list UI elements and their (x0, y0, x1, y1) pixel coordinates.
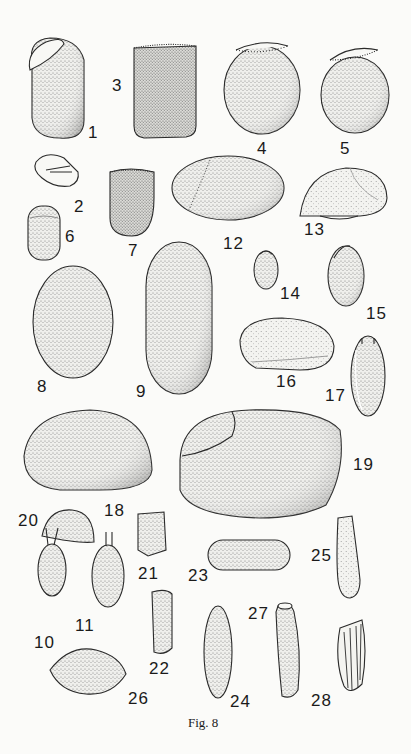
specimen-25 (337, 516, 360, 598)
label-18: 18 (104, 502, 125, 519)
specimen-7 (110, 169, 154, 236)
label-4: 4 (257, 140, 267, 157)
label-9: 9 (136, 383, 146, 400)
specimen-28 (338, 620, 365, 691)
label-27: 27 (248, 605, 269, 622)
label-3: 3 (112, 77, 122, 94)
specimen-12 (172, 156, 284, 220)
figure-caption: Fig. 8 (188, 716, 218, 729)
label-25: 25 (311, 547, 332, 564)
specimen-21 (138, 512, 166, 556)
specimen-1 (29, 38, 84, 138)
specimen-8 (33, 266, 113, 378)
specimen-27 (276, 603, 299, 697)
specimen-24 (204, 606, 232, 698)
label-12: 12 (223, 235, 244, 252)
specimen-17 (351, 336, 385, 416)
label-20: 20 (18, 512, 39, 529)
specimen-20 (42, 510, 94, 543)
specimen-18 (24, 410, 152, 490)
specimen-22 (152, 590, 172, 653)
figure-8: 1 3 4 5 2 7 6 12 13 14 15 8 9 16 17 19 1… (0, 0, 411, 754)
specimen-3 (134, 44, 196, 138)
label-19: 19 (353, 456, 374, 473)
specimen-19 (180, 410, 341, 518)
specimen-16 (240, 318, 334, 370)
label-10: 10 (34, 634, 55, 651)
specimen-14 (254, 251, 278, 289)
label-11: 11 (75, 617, 95, 634)
label-24: 24 (230, 693, 251, 710)
specimen-15 (328, 246, 364, 306)
label-15: 15 (366, 305, 387, 322)
label-8: 8 (37, 378, 47, 395)
label-28: 28 (311, 692, 332, 709)
label-17: 17 (325, 387, 346, 404)
specimen-4 (224, 43, 300, 134)
specimen-23 (208, 540, 290, 570)
specimen-6 (28, 206, 60, 260)
label-23: 23 (188, 567, 209, 584)
label-26: 26 (128, 690, 149, 707)
label-21: 21 (138, 565, 159, 582)
specimen-26 (50, 649, 126, 694)
specimen-11 (92, 532, 124, 607)
label-2: 2 (74, 198, 84, 215)
label-5: 5 (340, 140, 350, 157)
specimen-drawings (0, 0, 411, 754)
label-22: 22 (149, 660, 170, 677)
specimen-9 (146, 242, 212, 394)
specimen-13 (300, 168, 387, 219)
label-13: 13 (304, 221, 325, 238)
specimen-5 (321, 48, 389, 133)
specimen-2 (35, 155, 78, 187)
label-6: 6 (65, 228, 75, 245)
label-16: 16 (276, 373, 297, 390)
label-1: 1 (88, 124, 98, 141)
label-14: 14 (280, 285, 301, 302)
label-7: 7 (128, 242, 138, 259)
